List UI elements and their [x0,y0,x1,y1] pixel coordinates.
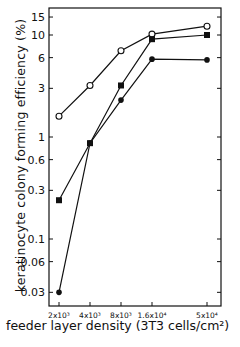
plot-frame [49,8,221,306]
filled-square-marker [149,36,155,42]
open-circle-marker [204,23,210,29]
filled-circle-marker [87,140,93,146]
y-tick-label: 3 [38,82,45,95]
line-chart: 0.030.060.10.30.61361015 2x10³4x10³8x10³… [0,0,240,347]
open-circle-marker [118,48,124,54]
y-tick-label: 1 [38,131,45,144]
y-tick-label: 0.1 [28,233,46,246]
filled-circle-marker [56,290,62,296]
open-circle-marker [56,113,62,119]
y-tick-label: 0.3 [28,184,46,197]
series-line [59,26,207,116]
filled-square-marker [56,197,62,203]
y-tick-label: 15 [31,11,45,24]
y-tick-label: 0.6 [28,154,46,167]
plot-border [49,8,221,306]
y-tick-label: 10 [31,29,45,42]
filled-circle-marker [118,97,124,103]
filled-square-marker [204,32,210,38]
x-axis-label: feeder layer density (3T3 cells/cm²) [6,318,229,333]
y-axis-label: keratinocyte colony forming efficiency (… [13,16,28,296]
filled-square-marker [118,82,124,88]
open-circle-marker [87,82,93,88]
filled-circle-marker [204,57,210,63]
y-tick-label: 6 [38,52,45,65]
filled-circle-marker [149,56,155,62]
data-series [56,23,210,295]
